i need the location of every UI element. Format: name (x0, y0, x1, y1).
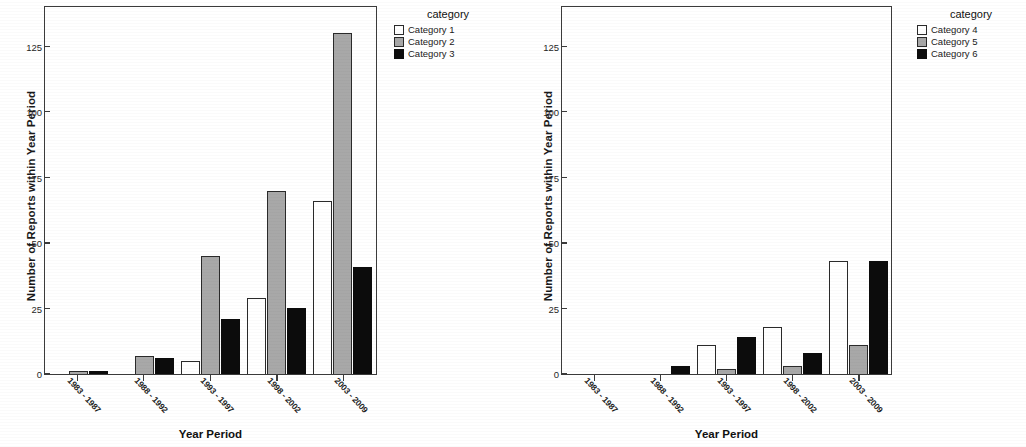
legend-item: Category 4 (917, 25, 1026, 35)
bar (783, 366, 802, 374)
plot-area-left: 0255075100125 (44, 6, 377, 375)
y-axis-tick-label: 125 (543, 42, 562, 52)
x-axis-tick-label: 1993 - 1997 (199, 376, 237, 415)
legend-item-label: Category 5 (931, 37, 977, 47)
legend-item: Category 1 (394, 25, 510, 35)
bar (737, 337, 756, 374)
legend-items-right: Category 4Category 5Category 6 (917, 25, 1026, 59)
bar (333, 33, 352, 374)
legend-item: Category 6 (917, 49, 1026, 59)
y-axis-title-right: Number of Reports within Year Period (542, 61, 554, 331)
bar (155, 358, 174, 374)
y-axis-tick-label: 125 (26, 42, 45, 52)
legend-title-left: category (386, 8, 510, 20)
legend-item: Category 3 (394, 49, 510, 59)
x-axis-tick-label: 1988 - 1992 (132, 376, 170, 415)
bar (89, 371, 108, 374)
legend-swatch-icon (917, 37, 927, 47)
bar-group (694, 7, 760, 374)
y-axis-tick-label: 100 (543, 108, 562, 118)
bar-group (825, 7, 891, 374)
bar-group (111, 7, 177, 374)
bar (201, 256, 220, 374)
legend-left: category Category 1Category 2Category 3 (390, 8, 510, 61)
bar (849, 345, 868, 374)
bar (267, 191, 286, 375)
bar (717, 369, 736, 374)
legend-item-label: Category 2 (408, 37, 454, 47)
x-axis-tick-label: 1998 - 2002 (781, 376, 819, 415)
bar (763, 327, 782, 374)
legend-swatch-icon (917, 49, 927, 59)
bar (803, 353, 822, 374)
legend-item: Category 5 (917, 37, 1026, 47)
bar-group (628, 7, 694, 374)
bar (69, 371, 88, 374)
legend-title-right: category (909, 8, 1026, 20)
bar (353, 267, 372, 374)
x-axis-tick-label: 1983 - 1987 (583, 376, 621, 415)
x-axis-tick-label: 1998 - 2002 (266, 376, 304, 415)
y-axis-tick-label: 25 (548, 304, 562, 314)
bar (313, 201, 332, 374)
y-axis-tick-label: 75 (548, 173, 562, 183)
legend-item-label: Category 6 (931, 49, 977, 59)
legend-swatch-icon (917, 25, 927, 35)
y-axis-tick-label: 75 (31, 173, 45, 183)
y-axis-tick-label: 25 (31, 304, 45, 314)
x-axis-tick-label: 2003 - 2009 (332, 376, 370, 415)
chart-panel-left: Number of Reports within Year Period 025… (0, 0, 513, 447)
legend-swatch-icon (394, 49, 404, 59)
x-axis-title-right: Year Period (561, 428, 892, 440)
x-axis-tick-label: 2003 - 2009 (848, 376, 886, 415)
legend-swatch-icon (394, 25, 404, 35)
bar (697, 345, 716, 374)
bar (181, 361, 200, 374)
bar-group (759, 7, 825, 374)
bar-group (45, 7, 111, 374)
legend-swatch-icon (394, 37, 404, 47)
bar (287, 308, 306, 374)
legend-right: category Category 4Category 5Category 6 (913, 8, 1026, 61)
y-axis-tick-label: 100 (26, 108, 45, 118)
legend-items-left: Category 1Category 2Category 3 (394, 25, 510, 59)
bar-groups-right (562, 7, 891, 374)
legend-item-label: Category 4 (931, 25, 977, 35)
legend-item-label: Category 3 (408, 49, 454, 59)
two-panel-bar-chart-figure: Number of Reports within Year Period 025… (0, 0, 1026, 447)
bar-groups-left (45, 7, 376, 374)
bar-group (244, 7, 310, 374)
legend-item-label: Category 1 (408, 25, 454, 35)
plot-area-right: 0255075100125 (561, 6, 892, 375)
x-axis-tick-label: 1983 - 1987 (66, 376, 104, 415)
x-axis-title-left: Year Period (44, 428, 377, 440)
x-axis-tick-label: 1993 - 1997 (715, 376, 753, 415)
bar-group (310, 7, 376, 374)
y-axis-tick-label: 50 (31, 239, 45, 249)
y-axis-tick-label: 50 (548, 239, 562, 249)
bar (247, 298, 266, 374)
bar (869, 261, 888, 374)
x-axis-tick-label: 1988 - 1992 (649, 376, 687, 415)
bar (135, 356, 154, 374)
y-axis-title-left: Number of Reports within Year Period (25, 61, 37, 331)
legend-item: Category 2 (394, 37, 510, 47)
bar (829, 261, 848, 374)
bar-group (562, 7, 628, 374)
bar (221, 319, 240, 374)
chart-panel-right: Number of Reports within Year Period 025… (513, 0, 1026, 447)
bar-group (177, 7, 243, 374)
bar (671, 366, 690, 374)
